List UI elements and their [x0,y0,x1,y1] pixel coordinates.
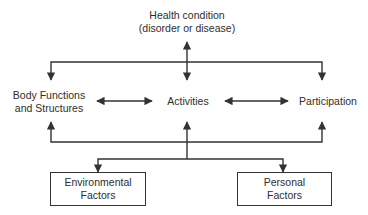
health-condition-line2: (disorder or disease) [137,22,237,35]
node-body-functions: Body Functions and Structures [4,89,94,115]
environmental-line2: Factors [80,189,115,202]
personal-line2: Factors [267,189,302,202]
node-health-condition: Health condition (disorder or disease) [137,9,237,35]
personal-line1: Personal [264,176,305,189]
environmental-line1: Environmental [64,176,131,189]
body-functions-line1: Body Functions [4,89,94,102]
node-activities: Activities [157,95,219,108]
node-environmental-factors: Environmental Factors [50,172,146,206]
body-functions-line2: and Structures [4,102,94,115]
node-personal-factors: Personal Factors [237,172,332,206]
health-condition-line1: Health condition [137,9,237,22]
node-participation: Participation [291,95,365,108]
